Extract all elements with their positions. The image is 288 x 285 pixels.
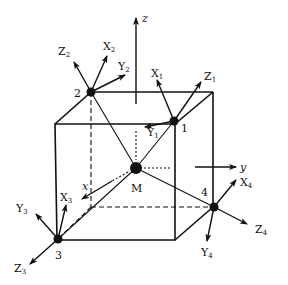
vertex-2-dot — [87, 88, 96, 97]
vertex-1-y-label: Y1 — [146, 126, 159, 140]
vertex-1-z-axis-arrow — [174, 82, 201, 121]
vertex-2-y-label: Y2 — [117, 60, 130, 74]
vertex-2-frame: 2 Z2 X2 Y2 — [58, 40, 130, 100]
vertex-4-x-axis-arrow — [214, 180, 236, 207]
vertex-2-label: 2 — [74, 87, 81, 100]
vertex-2-z-label: Z2 — [58, 45, 70, 59]
cube-coordinate-diagram: z y x 1 X1 Z1 Y1 2 Z2 X2 Y2 3 X3 Y3 Z — [0, 0, 288, 285]
y-axis-label: y — [239, 161, 247, 174]
vertex-1-dot — [170, 117, 179, 126]
vertex-1-z-label: Z1 — [204, 70, 216, 84]
vertex-4-z-label: Z4 — [255, 223, 268, 237]
vertex-3-y-axis-arrow — [36, 214, 58, 239]
cube-top-left-edge — [55, 92, 91, 124]
vertex-1-label: 1 — [181, 122, 188, 135]
z-axis-label: z — [141, 12, 148, 25]
vertex-4-frame: 4 X4 Z4 Y4 — [200, 176, 268, 260]
vertex-3-label: 3 — [55, 249, 62, 262]
x-axis-label: x — [82, 180, 89, 193]
cube-top-right-edge — [175, 92, 213, 124]
vertex-4-dot — [210, 203, 219, 212]
vertex-2-x-axis-arrow — [91, 56, 107, 92]
vertex-4-x-label: X4 — [240, 176, 253, 190]
vertex-3-z-label: Z3 — [14, 262, 26, 276]
vertex-2-y-axis-arrow — [91, 75, 125, 92]
vertex-3-z-axis-arrow — [30, 239, 58, 264]
vertex-1-frame: 1 X1 Z1 Y1 — [145, 67, 216, 140]
vertex-3-y-label: Y3 — [15, 202, 28, 216]
line-m-to-2 — [91, 92, 136, 168]
x-axis-hidden-segment — [112, 172, 128, 181]
line-m-to-1 — [136, 121, 174, 168]
cube-bottom-right-edge — [175, 207, 213, 240]
vertex-3-x-axis-arrow — [58, 205, 66, 239]
vertex-4-y-label: Y4 — [200, 246, 213, 260]
vertex-4-label: 4 — [201, 186, 208, 199]
center-point: M — [130, 162, 142, 195]
vertex-1-x-axis-arrow — [157, 80, 174, 121]
vertex-3-x-label: X3 — [60, 191, 72, 205]
vertex-4-z-axis-arrow — [214, 207, 247, 224]
vertex-3-dot — [54, 235, 63, 244]
center-m-label: M — [131, 182, 142, 195]
center-m-dot — [130, 162, 142, 174]
vertex-1-x-label: X1 — [151, 67, 163, 81]
vertex-2-x-label: X2 — [103, 40, 115, 54]
